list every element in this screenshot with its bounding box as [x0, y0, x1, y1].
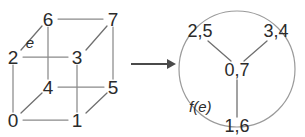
arrow-head-icon: [167, 59, 176, 69]
cube-edge-3-7: [86, 26, 107, 50]
cube-edge-1-5: [86, 93, 107, 113]
quotient-node-1-6: 1,6: [224, 116, 249, 136]
cube-vertex-7: 7: [108, 9, 119, 30]
cube-edge-label-e: e: [26, 34, 34, 51]
cube-vertex-2: 2: [8, 47, 19, 68]
quotient-edge-25-07: [208, 41, 231, 61]
cube-vertex-1: 1: [72, 110, 83, 131]
quotient-edge-label-fe: f(e): [189, 98, 212, 115]
quotient-node-3-4: 3,4: [263, 21, 288, 41]
quotient-graph-node-labels: 2,5 3,4 0,7 1,6: [187, 21, 288, 136]
figure-canvas: 0 1 2 3 4 5 6 7 e 2,5 3,4 0,7: [0, 0, 305, 137]
maps-to-arrow: [131, 59, 176, 69]
cube-vertex-5: 5: [108, 77, 119, 98]
cube-graph-vertex-labels: 0 1 2 3 4 5 6 7: [8, 9, 119, 131]
cube-vertex-4: 4: [43, 77, 54, 98]
quotient-node-2-5: 2,5: [187, 21, 212, 41]
quotient-edge-34-07: [244, 41, 267, 61]
cube-edge-0-4: [21, 93, 42, 113]
cube-vertex-3: 3: [72, 47, 83, 68]
quotient-node-0-7: 0,7: [224, 60, 249, 80]
cube-vertex-0: 0: [8, 110, 19, 131]
diagram-svg: 0 1 2 3 4 5 6 7 e 2,5 3,4 0,7: [0, 0, 305, 137]
cube-vertex-6: 6: [43, 9, 54, 30]
